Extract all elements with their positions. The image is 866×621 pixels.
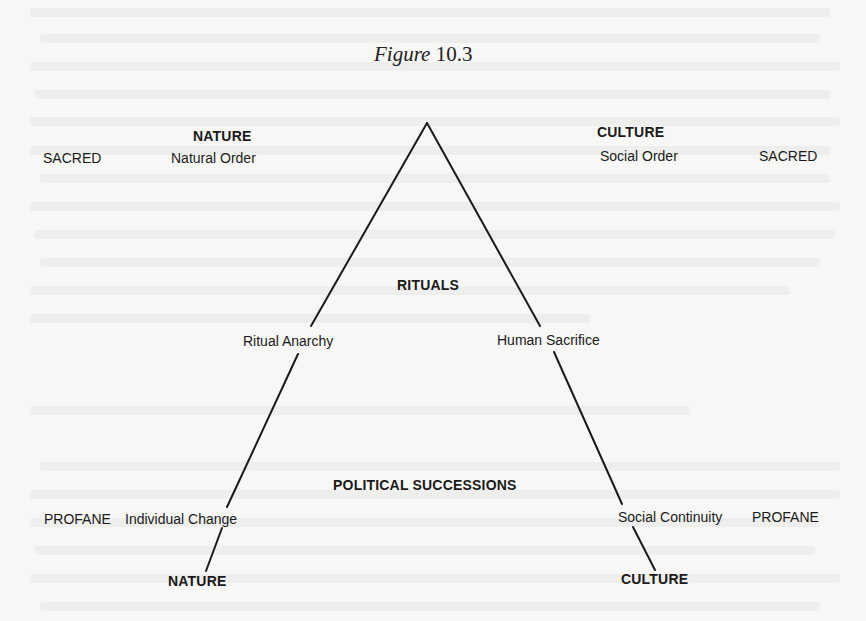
figure-caption: Figure 10.3 xyxy=(374,44,472,65)
left-line-lower xyxy=(206,528,222,571)
top-left-heading-nature: NATURE xyxy=(193,129,252,143)
left-line-upper xyxy=(311,123,427,326)
bottom-left-heading-nature: NATURE xyxy=(168,574,227,588)
individual-change-label: Individual Change xyxy=(125,512,237,526)
left-line-middle xyxy=(227,354,298,507)
lower-left-profane: PROFANE xyxy=(44,512,111,526)
top-right-social-order: Social Order xyxy=(600,149,678,163)
triangle-lines xyxy=(0,0,866,621)
rituals-heading: RITUALS xyxy=(397,278,459,292)
right-line-upper xyxy=(427,123,540,326)
top-left-sacred: SACRED xyxy=(43,151,101,165)
top-right-heading-culture: CULTURE xyxy=(597,125,664,139)
lower-right-profane: PROFANE xyxy=(752,510,819,524)
social-continuity-label: Social Continuity xyxy=(618,510,722,524)
bottom-right-heading-culture: CULTURE xyxy=(621,572,688,586)
right-line-lower xyxy=(633,527,655,570)
figure-caption-number: 10.3 xyxy=(436,42,473,66)
political-successions-heading: POLITICAL SUCCESSIONS xyxy=(333,478,517,492)
human-sacrifice-label: Human Sacrifice xyxy=(497,333,600,347)
top-right-sacred: SACRED xyxy=(759,149,817,163)
figure-caption-word: Figure xyxy=(374,42,430,66)
ritual-anarchy-label: Ritual Anarchy xyxy=(243,334,333,348)
top-left-natural-order: Natural Order xyxy=(171,151,256,165)
right-line-middle xyxy=(554,352,622,504)
